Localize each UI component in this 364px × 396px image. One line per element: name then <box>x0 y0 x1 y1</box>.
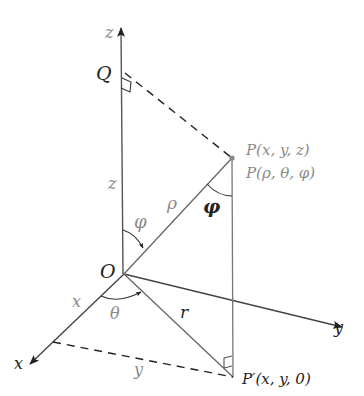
dashed-Q-to-P <box>125 73 232 158</box>
x-length-label: x <box>72 292 81 311</box>
point-P <box>229 155 234 160</box>
phi-arc-origin <box>123 230 143 248</box>
y-length-label: y <box>133 360 144 379</box>
y-axis-label: y <box>333 318 344 337</box>
phi-origin-label: φ <box>134 211 147 232</box>
z-height-label: z <box>107 174 117 193</box>
origin-label: O <box>100 260 116 282</box>
point-P-cartesian-label: P(x, y, z) <box>245 141 310 159</box>
theta-arc <box>101 292 141 299</box>
point-Q-label: Q <box>96 62 112 84</box>
right-angle-marker-Pprime-edge <box>224 366 232 368</box>
point-Pprime-label: P′(x, y, 0) <box>241 370 311 388</box>
z-axis-label: z <box>104 23 114 42</box>
point-P-spherical-label: P(ρ, θ, φ) <box>245 164 315 182</box>
z-axis <box>121 28 123 274</box>
spherical-coordinates-diagram: z Q z ρ φ φ O P(x, y, z) P(ρ, θ, φ) x θ … <box>0 0 364 396</box>
right-angle-marker-Q <box>121 78 131 92</box>
theta-label: θ <box>110 304 120 323</box>
x-axis-label: x <box>14 354 23 373</box>
rho-label: ρ <box>166 193 177 213</box>
r-label: r <box>180 302 189 322</box>
phi-P-label: φ <box>203 195 220 217</box>
vertical-segment-P-to-Pprime <box>232 158 233 377</box>
